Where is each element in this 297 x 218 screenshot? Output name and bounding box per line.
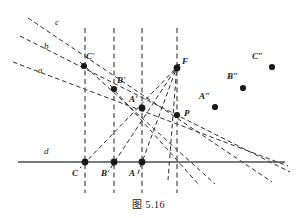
label-line-b: b [44,42,49,51]
point-dot-C [82,159,89,166]
figure-caption: 图 5.16 [0,196,297,211]
label-point-f: F [182,57,188,66]
point-dot-C-double-prime [269,64,275,70]
label-point-a: A [129,169,135,178]
point-dot-C-prime [81,63,87,69]
label-point-a-double-prime: A″ [199,92,210,101]
label-point-c-prime: C' [86,52,95,61]
label-point-p: P [184,109,190,118]
geometry-canvas [0,0,297,218]
label-point-b: B [101,169,107,178]
point-dot-B [111,159,118,166]
line-BprimeA [110,85,200,186]
label-point-b-double-prime: B″ [227,72,238,81]
ray-F-C [80,64,180,168]
point-dot-B-double-prime [240,85,246,91]
label-point-c-double-prime: C″ [252,52,263,61]
label-point-c: C [72,169,78,178]
label-line-c: c [55,18,59,27]
point-dot-B-prime [111,86,117,92]
line-b [20,36,290,172]
line-CprimeA [80,62,215,184]
point-dot-F [174,65,181,72]
line-c [28,18,272,182]
figure-5-16: a b c d C' B' A' F P C B A A″ B″ C″ 图 5.… [0,0,297,218]
label-point-a-prime: A' [129,95,138,104]
point-dot-A [139,159,146,166]
pencil-line-group [13,18,290,186]
label-line-d: d [44,147,49,156]
point-dot-P [174,112,180,118]
label-point-b-prime: B' [117,76,126,85]
point-dot-A-prime [139,105,146,112]
point-dot-A-double-prime [212,104,218,110]
label-line-a: a [38,66,43,75]
line-a [13,62,288,166]
